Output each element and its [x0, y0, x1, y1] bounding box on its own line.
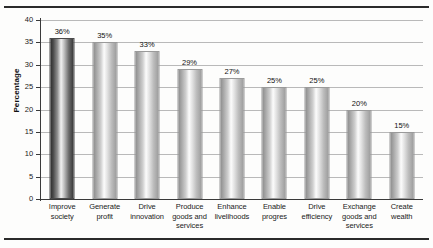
bars-group: 36%35%33%29%27%25%25%20%15%: [41, 20, 423, 199]
bar-value-label: 25%: [295, 76, 339, 85]
y-axis-tick: 40: [0, 16, 33, 24]
x-axis-labels-group: ImprovesocietyGenerateprofitDriveinnovat…: [41, 202, 423, 242]
y-axis-tick-label: 5: [9, 173, 33, 181]
bar-value-label: 36%: [40, 27, 84, 36]
y-axis-tick-label: 0: [9, 195, 33, 203]
y-axis-tick: 10: [0, 150, 33, 158]
bar[interactable]: [389, 132, 414, 199]
bar-value-label: 20%: [337, 99, 381, 108]
bar-slot: 29%: [168, 20, 210, 199]
bar[interactable]: [177, 69, 202, 199]
y-axis-tick-mark: [36, 199, 41, 200]
bar-value-label: 33%: [125, 40, 169, 49]
bar[interactable]: [92, 42, 117, 199]
bar-value-label: 15%: [380, 121, 424, 130]
x-axis-label-line: wealth: [377, 212, 427, 222]
bar-slot: 33%: [126, 20, 168, 199]
bar[interactable]: [262, 87, 287, 199]
bar[interactable]: [50, 38, 75, 199]
x-axis-label-line: services: [334, 221, 384, 231]
bar[interactable]: [219, 78, 244, 199]
bar-slot: 15%: [381, 20, 423, 199]
bar-value-label: 27%: [210, 67, 254, 76]
bar-value-label: 29%: [168, 58, 212, 67]
bar-slot: 25%: [253, 20, 295, 199]
x-axis-label-line: services: [164, 221, 214, 231]
x-axis-label: Createwealth: [377, 202, 427, 221]
bar-value-label: 25%: [252, 76, 296, 85]
y-axis-tick-label: 35: [9, 38, 33, 46]
x-axis-line: [40, 199, 423, 200]
y-axis-tick-label: 40: [9, 16, 33, 24]
y-axis-tick: 5: [0, 173, 33, 181]
bar[interactable]: [304, 87, 329, 199]
bar[interactable]: [135, 51, 160, 199]
bar-slot: 27%: [211, 20, 253, 199]
bar[interactable]: [347, 110, 372, 200]
x-axis-label-line: Create: [377, 202, 427, 212]
bar-slot: 35%: [83, 20, 125, 199]
bar-slot: 25%: [296, 20, 338, 199]
bar-slot: 20%: [338, 20, 380, 199]
y-axis-tick-label: 10: [9, 150, 33, 158]
bar-slot: 36%: [41, 20, 83, 199]
top-horizontal-rule: [4, 6, 429, 8]
bar-chart-figure: 0510152025303540 Percentage 36%35%33%29%…: [0, 0, 433, 248]
bar-value-label: 35%: [83, 31, 127, 40]
y-axis-tick: 0: [0, 195, 33, 203]
y-axis-tick: 35: [0, 38, 33, 46]
y-axis-title: Percentage: [12, 51, 21, 131]
